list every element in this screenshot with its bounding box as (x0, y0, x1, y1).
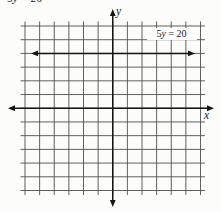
figure: 5y = 20 y x 5y = 20 (0, 0, 221, 212)
x-axis-label: x (204, 109, 209, 121)
worksheet-figure-page: { "page": { "background": "#fcfcfb" }, "… (0, 0, 221, 212)
caption-fragment: 5y = 20 (7, 0, 42, 4)
caption-rhs: = 20 (18, 0, 42, 4)
y-axis-label: y (116, 5, 121, 17)
line-equation-label: 5y = 20 (147, 28, 197, 40)
equation-rhs: = 20 (166, 28, 187, 39)
